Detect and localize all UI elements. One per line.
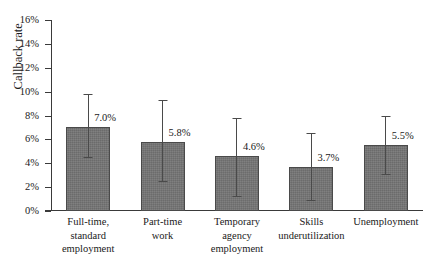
bar-group[interactable]: 7.0% [51,20,125,211]
bar-group[interactable]: 3.7% [274,20,348,211]
y-axis-tick-label: 8% [25,110,39,121]
error-bar-line [88,94,89,158]
y-axis-tick [45,211,51,212]
bar-value-label: 5.8% [169,128,191,139]
x-axis-category-label: Unemployment [349,215,423,229]
x-axis-category-label: Part-timework [125,215,199,242]
bar-value-label: 7.0% [94,113,116,124]
y-axis-tick-label: 0% [25,206,39,217]
y-axis-tick-label: 14% [20,39,39,50]
x-axis-category-label-line: work [125,229,199,243]
error-bar-line [385,116,386,176]
error-bar [232,118,241,197]
plot-area: 0%2%4%6%8%10%12%14%16% 7.0%5.8%4.6%3.7%5… [51,20,423,211]
x-axis-category-label-line: underutilization [274,229,348,243]
bar-group[interactable]: 5.5% [349,20,423,211]
error-bar [84,94,93,158]
x-axis-category-label-line: standard [51,229,125,243]
x-axis-category-label: Full-time,standardemployment [51,215,125,256]
x-axis-category-label-line: employment [51,242,125,256]
y-axis-tick-label: 6% [25,134,39,145]
x-axis-labels: Full-time,standardemploymentPart-timewor… [51,215,423,267]
bars-layer: 7.0%5.8%4.6%3.7%5.5% [51,20,423,211]
y-axis-tick-label: 4% [25,158,39,169]
bar-group[interactable]: 4.6% [200,20,274,211]
y-axis-tick-label: 2% [25,182,39,193]
x-axis-category-label-line: Full-time, [51,215,125,229]
y-axis-tick-label: 12% [20,63,39,74]
x-axis-category-label-line: employment [200,242,274,256]
bar-group[interactable]: 5.8% [125,20,199,211]
y-axis-tick-label: 10% [20,86,39,97]
error-bar [158,100,167,182]
x-axis-category-label-line: agency [200,229,274,243]
error-bar-line [236,118,237,197]
error-bar-cap-top [84,94,93,95]
error-bar-cap-bottom [381,174,390,175]
error-bar [381,116,390,176]
error-bar-line [162,100,163,182]
error-bar-cap-top [232,118,241,119]
x-axis-category-label-line: Skills [274,215,348,229]
bar-value-label: 3.7% [317,153,339,164]
error-bar-cap-top [307,133,316,134]
bar-value-label: 5.5% [392,131,414,142]
error-bar-line [311,133,312,201]
bar-chart: Callback rate 0%2%4%6%8%10%12%14%16% 7.0… [0,0,428,267]
error-bar [307,133,316,201]
x-axis-category-label-line: Temporary [200,215,274,229]
error-bar-cap-bottom [232,196,241,197]
x-axis-category-label-line: Unemployment [349,215,423,229]
x-axis-category-label-line: Part-time [125,215,199,229]
error-bar-cap-top [158,100,167,101]
x-axis-category-label: Skillsunderutilization [274,215,348,242]
y-axis-tick-label: 16% [20,15,39,26]
error-bar-cap-top [381,116,390,117]
error-bar-cap-bottom [84,157,93,158]
x-axis-category-label: Temporaryagencyemployment [200,215,274,256]
bar-value-label: 4.6% [243,142,265,153]
error-bar-cap-bottom [158,181,167,182]
error-bar-cap-bottom [307,200,316,201]
